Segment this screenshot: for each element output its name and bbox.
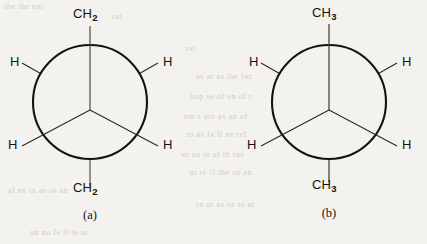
substituent-label-bottom-b: CH3 <box>312 177 336 194</box>
back-bond-upper-left-a <box>22 63 41 74</box>
substituent-label-top-b: CH3 <box>312 5 336 22</box>
hydrogen-label-lower-left-a: H <box>8 137 17 152</box>
hydrogen-label-upper-left-b: H <box>249 54 258 69</box>
hydrogen-label-upper-right-b: H <box>402 54 411 69</box>
substituent-label-bottom-b-subscript: 3 <box>331 183 336 194</box>
substituent-label-top-a: CH2 <box>73 6 97 23</box>
substituent-label-top-a-text: CH <box>73 6 92 21</box>
substituent-label-top-a-subscript: 2 <box>92 12 97 23</box>
substituent-label-top-b-subscript: 3 <box>331 11 336 22</box>
substituent-label-bottom-a-subscript: 2 <box>92 186 97 197</box>
substituent-label-bottom-a: CH2 <box>73 180 97 197</box>
figure-caption-b: (b) <box>299 206 359 221</box>
substituent-label-top-b-text: CH <box>312 5 331 20</box>
hydrogen-label-lower-right-a: H <box>163 137 172 152</box>
hydrogen-label-lower-right-b: H <box>402 137 411 152</box>
front-bond-lower-right-a <box>90 110 158 146</box>
newman-diagram-a <box>22 26 158 186</box>
front-bond-lower-left-b <box>261 110 329 146</box>
substituent-label-bottom-a-text: CH <box>73 180 92 195</box>
newman-projection-figure: CH2 CH2 H H H H (a) CH3 CH3 H H H H (b) <box>0 0 427 244</box>
back-bond-upper-right-a <box>140 63 159 74</box>
newman-diagram-b <box>261 24 397 182</box>
figure-caption-a: (a) <box>60 208 120 223</box>
back-bond-upper-right-b <box>379 63 398 74</box>
front-bond-lower-right-b <box>329 110 397 146</box>
back-bond-upper-left-b <box>261 63 280 74</box>
hydrogen-label-upper-left-a: H <box>10 54 19 69</box>
hydrogen-label-upper-right-a: H <box>163 54 172 69</box>
substituent-label-bottom-b-text: CH <box>312 177 331 192</box>
hydrogen-label-lower-left-b: H <box>247 137 256 152</box>
front-bond-lower-left-a <box>22 110 90 146</box>
